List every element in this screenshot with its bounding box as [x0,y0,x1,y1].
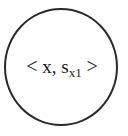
close-angle-bracket: > [86,55,97,77]
state-node-label: < x, sx1 > [0,55,124,78]
label-variable: x [42,56,52,77]
label-subscript: x1 [69,65,82,80]
label-symbol: s [61,56,68,77]
open-angle-bracket: < [26,55,37,77]
label-separator: , [52,56,62,77]
